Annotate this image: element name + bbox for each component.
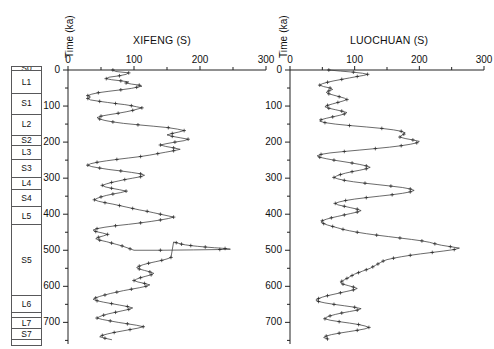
y-tick-label: 300 [250,172,282,183]
series-line-1 [316,70,460,339]
y-tick-label: 200 [28,136,60,147]
y-tick-label: 400 [250,208,282,219]
y-tick-label: 500 [250,244,282,255]
x-tick-label: 200 [409,54,429,65]
y-tick-label: 600 [28,280,60,291]
x-tick-label: 300 [474,54,494,65]
y-tick-label: 600 [250,280,282,291]
y-tick-label: 700 [28,316,60,327]
y-tick-label: 400 [28,208,60,219]
x-tick-label: 100 [124,54,144,65]
y-tick-label: 100 [28,100,60,111]
y-tick-label: 0 [28,64,60,75]
y-tick-label: 200 [250,136,282,147]
y-tick-label: 700 [250,316,282,327]
y-tick-label: 300 [28,172,60,183]
x-tick-label: 200 [190,54,210,65]
panel-luochuan: LUOCHUAN (S) Time (ka) 01002003000100200… [218,0,489,349]
x-tick-label: 0 [58,54,78,65]
series-line-1 [88,70,231,340]
y-tick-label: 500 [28,244,60,255]
x-tick-label: 100 [345,54,365,65]
series-markers-1 [86,68,227,340]
y-tick-label: 100 [250,100,282,111]
y-tick-label: 0 [250,64,282,75]
x-tick-label: 0 [280,54,300,65]
